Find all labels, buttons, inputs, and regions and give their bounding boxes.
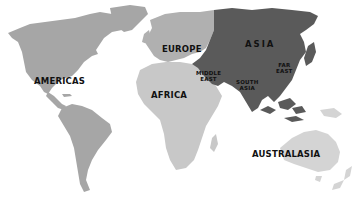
label-asia: ASIA	[245, 40, 275, 49]
label-australasia: AUSTRALASIA	[252, 150, 320, 159]
label-africa: AFRICA	[151, 91, 187, 100]
world-map	[0, 0, 357, 203]
label-americas: AMERICAS	[34, 77, 85, 86]
label-south-asia-line2: ASIA	[236, 86, 258, 92]
label-middle-east-line2: EAST	[196, 77, 221, 83]
label-middle-east: MIDDLE EAST	[196, 71, 221, 83]
label-far-east-line2: EAST	[276, 69, 293, 75]
americas-region	[8, 5, 148, 192]
label-far-east: FAR EAST	[276, 63, 293, 75]
label-europe: EUROPE	[162, 45, 202, 54]
label-south-asia: SOUTH ASIA	[236, 80, 258, 92]
